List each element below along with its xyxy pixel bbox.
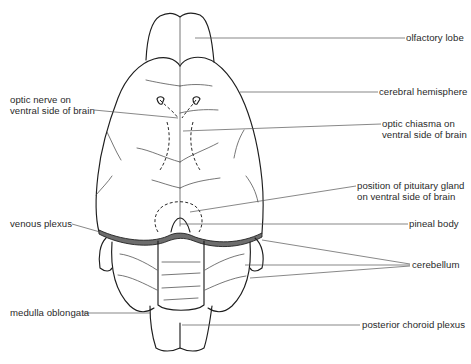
label-posterior-choroid-plexus: posterior choroid plexus: [362, 319, 465, 330]
venous-plexus-band: [99, 230, 262, 247]
label-cerebellum: cerebellum: [412, 259, 459, 270]
cerebellum: [99, 238, 263, 312]
cerebral-hemispheres: [96, 17, 263, 233]
label-pineal-body: pineal body: [409, 218, 459, 229]
label-optic-nerve: optic nerve on ventral side of brain: [10, 94, 95, 116]
label-olfactory-lobe: olfactory lobe: [406, 32, 464, 43]
optic-nerves: [157, 97, 200, 170]
label-pituitary-gland: position of pituitary gland on ventral s…: [357, 180, 464, 202]
label-medulla-oblongata: medulla oblongata: [10, 307, 89, 318]
medulla-oblongata: [150, 306, 212, 351]
label-venous-plexus: venous plexus: [10, 218, 72, 229]
label-cerebral-hemisphere: cerebral hemisphere: [379, 86, 467, 97]
label-optic-chiasma: optic chiasma on ventral side of brain: [382, 118, 467, 140]
pineal-body: [171, 218, 190, 232]
pituitary-position: [155, 202, 202, 232]
